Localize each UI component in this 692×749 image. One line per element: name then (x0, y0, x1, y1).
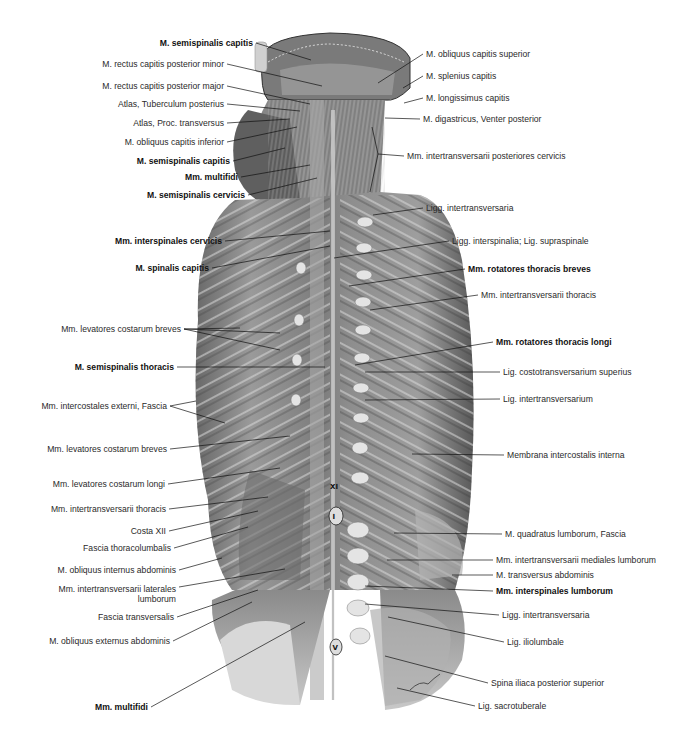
label-m-transversus-abdominis: M. transversus abdominis (496, 570, 594, 580)
label-mm-interspinales-cervicis: Mm. interspinales cervicis (115, 236, 222, 246)
label-mm-intertransversarii-thoracis: Mm. intertransversarii thoracis (481, 290, 596, 300)
label-m-semispinalis-capitis: M. semispinalis capitis (137, 156, 230, 166)
label-mm-levatores-costarum-breves: Mm. levatores costarum breves (61, 324, 181, 334)
label-m-obliquus-capitis-inferior: M. obliquus capitis inferior (125, 137, 224, 147)
label-m-longissimus-capitis: M. longissimus capitis (426, 93, 510, 103)
label-atlas-proc-transversus: Atlas, Proc. transversus (133, 118, 224, 128)
vertebra-marker: XI (330, 483, 338, 491)
label-m-semispinalis-cervicis: M. semispinalis cervicis (147, 190, 245, 200)
label-costa-xii: Costa XII (131, 526, 166, 536)
leader-line (170, 401, 196, 406)
label-mm-intertransversarii-mediales-lumborum: Mm. intertransversarii mediales lumborum (496, 555, 656, 565)
label-m-rectus-capitis-posterior-minor: M. rectus capitis posterior minor (102, 59, 224, 69)
label-lig-iliolumbale: Lig. iliolumbale (507, 637, 564, 647)
label-mm-levatores-costarum-longi: Mm. levatores costarum longi (53, 479, 165, 489)
label-m-quadratus-lumborum-fascia: M. quadratus lumborum, Fascia (505, 529, 626, 539)
label-mm-intertransversarii-posteriores-cervicis: Mm. intertransversarii posteriores cervi… (407, 151, 566, 161)
label-mm-levatores-costarum-breves: Mm. levatores costarum breves (47, 444, 167, 454)
label-m-semispinalis-thoracis: M. semispinalis thoracis (75, 362, 174, 372)
label-ligg-interspinalia-lig-supraspinale: Ligg. interspinalia; Lig. supraspinale (452, 236, 589, 246)
label-mm-interspinales-lumborum: Mm. interspinales lumborum (496, 586, 613, 596)
label-ligg-intertransversaria: Ligg. intertransversaria (426, 203, 513, 213)
label-ligg-intertransversaria: Ligg. intertransversaria (502, 610, 589, 620)
label-mm-rotatores-thoracis-longi: Mm. rotatores thoracis longi (496, 337, 612, 347)
label-mm-multifidi: Mm. multifidi (95, 702, 148, 712)
label-m-obliquus-internus-abdominis: M. obliquus internus abdominis (58, 565, 176, 575)
label-mm-intertransversarii-thoracis: Mm. intertransversarii thoracis (51, 504, 166, 514)
vertebra-marker: I (333, 513, 336, 521)
leader-line (404, 98, 423, 103)
vertebra-marker: V (333, 644, 338, 652)
label-m-obliquus-capitis-superior: M. obliquus capitis superior (426, 49, 530, 59)
leader-line (179, 558, 222, 570)
label-mm-rotatores-thoracis-breves: Mm. rotatores thoracis breves (468, 264, 591, 274)
label-mm-intercostales-externi-fascia: Mm. intercostales externi, Fascia (41, 401, 167, 411)
label-mm-intertransversarii-laterales-lumborum: Mm. intertransversarii laterales lumboru… (26, 584, 176, 604)
label-lig-costotransversarium-superius: Lig. costotransversarium superius (503, 367, 631, 377)
label-mm-multifidi: Mm. multifidi (185, 172, 238, 182)
label-m-digastricus-venter-posterior: M. digastricus, Venter posterior (423, 114, 541, 124)
label-m-obliquus-externus-abdominis: M. obliquus externus abdominis (49, 636, 170, 646)
neck (233, 100, 385, 205)
label-m-splenius-capitis: M. splenius capitis (426, 71, 496, 81)
label-m-semispinalis-capitis: M. semispinalis capitis (160, 38, 253, 48)
label-lig-intertransversarium: Lig. intertransversarium (503, 394, 593, 404)
label-spina-iliaca-posterior-superior: Spina iliaca posterior superior (491, 678, 604, 688)
label-fascia-transversalis: Fascia transversalis (98, 612, 174, 622)
label-lig-sacrotuberale: Lig. sacrotuberale (478, 701, 546, 711)
label-membrana-intercostalis-interna: Membrana intercostalis interna (507, 450, 625, 460)
leader-line (385, 118, 420, 119)
label-fascia-thoracolumbalis: Fascia thoracolumbalis (83, 543, 171, 553)
label-atlas-tuberculum-posterius: Atlas, Tuberculum posterius (118, 99, 224, 109)
occiput (255, 33, 410, 100)
label-m-rectus-capitis-posterior-major: M. rectus capitis posterior major (102, 81, 224, 91)
label-m-spinalis-capitis: M. spinalis capitis (135, 263, 209, 273)
